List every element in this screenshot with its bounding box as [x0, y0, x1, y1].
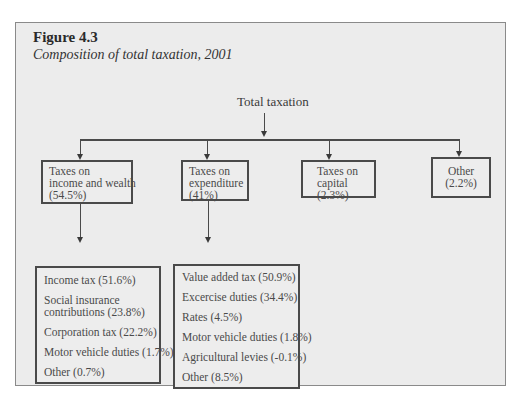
item-text: contributions (23.8%): [44, 306, 152, 318]
item-text: Excercise duties (34.4%): [182, 291, 291, 303]
item-text: Agricultural levies (-0.1%): [182, 351, 291, 363]
arrow-down-icon: [205, 237, 211, 243]
breakdown-item-motor-vehicle-duties: Motor vehicle duties (1.7%): [44, 346, 152, 358]
figure-caption: Composition of total taxation, 2001: [33, 47, 233, 63]
income-breakdown-box: Income tax (51.6%) Social insurancecontr…: [35, 266, 161, 384]
category-box-income-wealth: Taxes on income and wealth (54.5%): [41, 160, 133, 204]
category-text: Taxes on: [49, 165, 125, 177]
item-text: Other (8.5%): [182, 371, 291, 383]
breakdown-item-other: Other (0.7%): [44, 366, 152, 378]
breakdown-item-vat: Value added tax (50.9%): [182, 271, 291, 283]
category-text: expenditure: [189, 177, 241, 189]
breakdown-item-social-insurance: Social insurancecontributions (23.8%): [44, 294, 152, 318]
breakdown-item-rates: Rates (4.5%): [182, 311, 291, 323]
breakdown-item-income-tax: Income tax (51.6%): [44, 274, 152, 286]
category-text: income and wealth: [49, 177, 125, 189]
root-connector: [264, 113, 265, 133]
item-text: Rates (4.5%): [182, 311, 291, 323]
category-text: Taxes on: [317, 165, 368, 177]
category-share: (54.5%): [49, 189, 125, 201]
figure-label: Figure 4.3: [33, 29, 98, 46]
root-arrow-icon: [261, 131, 267, 137]
category-share: (41%): [189, 189, 241, 201]
item-text: Corporation tax (22.2%): [44, 326, 152, 338]
item-text: Income tax (51.6%): [44, 274, 152, 286]
item-text: Motor vehicle duties (1.7%): [44, 346, 152, 358]
breakdown-item-other: Other (8.5%): [182, 371, 291, 383]
item-text: Other (0.7%): [44, 366, 152, 378]
breakdown-item-motor-vehicle-duties: Motor vehicle duties (1.8%): [182, 331, 291, 343]
arrow-down-icon: [77, 237, 83, 243]
item-text: Value added tax (50.9%): [182, 271, 291, 283]
category-text: Taxes on: [189, 165, 241, 177]
category-box-expenditure: Taxes on expenditure (41%): [181, 160, 249, 201]
category-share: (2.3%): [317, 189, 368, 201]
category-text: capital: [317, 177, 368, 189]
income-breakdown-connector: [80, 204, 81, 239]
category-box-other: Other (2.2%): [431, 157, 491, 198]
breakdown-item-excercise-duties: Excercise duties (34.4%): [182, 291, 291, 303]
breakdown-item-agricultural-levies: Agricultural levies (-0.1%): [182, 351, 291, 363]
category-share: (2.2%): [439, 177, 483, 189]
branch-bar: [80, 139, 460, 141]
item-text: Motor vehicle duties (1.8%): [182, 331, 291, 343]
breakdown-item-corporation-tax: Corporation tax (22.2%): [44, 326, 152, 338]
expenditure-breakdown-connector: [208, 201, 209, 239]
item-text: Social insurance: [44, 294, 152, 306]
root-node-total-taxation: Total taxation: [237, 94, 309, 110]
category-box-capital: Taxes on capital (2.3%): [301, 160, 376, 198]
expenditure-breakdown-box: Value added tax (50.9%) Excercise duties…: [173, 264, 300, 389]
category-text: Other: [439, 165, 483, 177]
